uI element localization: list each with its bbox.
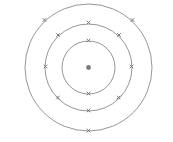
nucleus [86,65,91,70]
bohr-atom-diagram [0,0,173,142]
background [0,0,173,142]
